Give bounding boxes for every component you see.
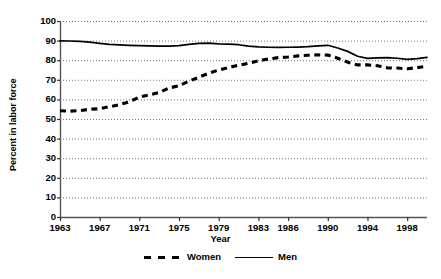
solid-line-icon <box>235 252 273 262</box>
legend-item-men[interactable]: Men <box>235 252 297 262</box>
chart-legend: Women Men <box>0 252 441 262</box>
legend-label-men: Men <box>278 252 297 262</box>
legend-label-women: Women <box>187 252 221 262</box>
legend-item-women[interactable]: Women <box>144 252 221 262</box>
chart-figure: Percent in labor force 10090807060504030… <box>0 0 441 279</box>
x-axis-title: Year <box>0 233 441 244</box>
dashed-line-icon <box>144 252 182 262</box>
data-line-women <box>60 55 427 111</box>
data-line-men <box>60 41 427 60</box>
